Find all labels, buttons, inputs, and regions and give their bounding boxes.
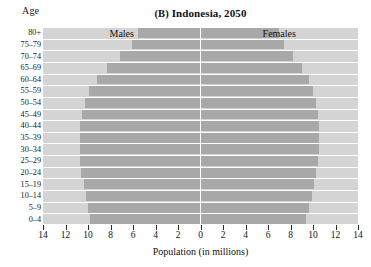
age-label-10_14: 10–14 (1, 191, 41, 200)
plot-area: Males Females (43, 27, 358, 225)
chart-title: (B) Indonesia, 2050 (43, 7, 358, 19)
x-tick-label: 2 (167, 230, 189, 240)
bar-female-50_54 (201, 98, 317, 108)
age-label-40_44: 40–44 (1, 121, 41, 130)
x-tick-label: 8 (280, 230, 302, 240)
bar-female-25_29 (201, 156, 318, 166)
x-tick-label: 12 (325, 230, 347, 240)
x-tick-label: 0 (190, 230, 212, 240)
population-pyramid-figure: Age (B) Indonesia, 2050 80+75–7970–7465–… (0, 0, 371, 267)
bar-male-0_4 (90, 214, 200, 224)
chart-title-text: Indonesia, 2050 (172, 7, 247, 19)
age-label-30_34: 30–34 (1, 145, 41, 154)
bar-male-15_19 (84, 179, 201, 189)
x-tick-label: 8 (100, 230, 122, 240)
age-label-15_19: 15–19 (1, 180, 41, 189)
age-label-45_49: 45–49 (1, 110, 41, 119)
age-label-65_69: 65–69 (1, 63, 41, 72)
zero-axis-line (200, 27, 201, 225)
x-tick-label: 10 (302, 230, 324, 240)
bar-male-65_69 (107, 63, 200, 73)
x-tick-label: 14 (347, 230, 369, 240)
panel-letter: (B) (154, 8, 168, 19)
bar-female-5_9 (201, 203, 309, 213)
bar-female-65_69 (201, 63, 302, 73)
age-label-50_54: 50–54 (1, 98, 41, 107)
x-tick-label: 6 (122, 230, 144, 240)
x-tick-label: 12 (55, 230, 77, 240)
bar-male-20_24 (81, 168, 200, 178)
bar-male-40_44 (80, 121, 200, 131)
age-group-labels: 80+75–7970–7465–6960–6455–5950–5445–4940… (0, 27, 41, 225)
bar-male-35_39 (80, 133, 200, 143)
age-label-55_59: 55–59 (1, 86, 41, 95)
age-label-35_39: 35–39 (1, 133, 41, 142)
bar-male-30_34 (80, 144, 200, 154)
age-label-20_24: 20–24 (1, 168, 41, 177)
bar-male-10_14 (86, 191, 201, 201)
bar-female-10_14 (201, 191, 312, 201)
bar-female-70_74 (201, 51, 293, 61)
x-tick-label: 4 (235, 230, 257, 240)
age-label-75_79: 75–79 (1, 40, 41, 49)
age-axis-title: Age (22, 5, 39, 16)
bar-male-5_9 (88, 203, 201, 213)
bar-female-75_79 (201, 39, 284, 49)
bar-female-40_44 (201, 121, 319, 131)
series-label-males: Males (43, 28, 201, 39)
age-label-0_4: 0–4 (1, 215, 41, 224)
x-tick-label: 14 (32, 230, 54, 240)
bar-female-55_59 (201, 86, 314, 96)
population-axis: 141210864202468101214 (43, 225, 358, 247)
age-label-5_9: 5–9 (1, 203, 41, 212)
bar-male-25_29 (80, 156, 200, 166)
bar-male-60_64 (97, 74, 201, 84)
x-tick-label: 2 (212, 230, 234, 240)
bar-male-55_59 (89, 86, 200, 96)
series-label-females: Females (201, 28, 359, 39)
bar-female-20_24 (201, 168, 317, 178)
age-label-60_64: 60–64 (1, 75, 41, 84)
bar-female-15_19 (201, 179, 315, 189)
bar-female-60_64 (201, 74, 309, 84)
population-axis-title: Population (in millions) (43, 246, 358, 257)
bar-male-75_79 (132, 39, 201, 49)
age-label-80+: 80+ (1, 28, 41, 37)
age-label-25_29: 25–29 (1, 156, 41, 165)
bar-female-30_34 (201, 144, 319, 154)
bar-female-35_39 (201, 133, 319, 143)
bar-female-0_4 (201, 214, 307, 224)
age-label-70_74: 70–74 (1, 52, 41, 61)
x-tick-label: 4 (145, 230, 167, 240)
bar-female-45_49 (201, 109, 318, 119)
bar-male-70_74 (120, 51, 201, 61)
x-tick-label: 6 (257, 230, 279, 240)
x-tick-label: 10 (77, 230, 99, 240)
bar-male-45_49 (82, 109, 200, 119)
bar-male-50_54 (85, 98, 201, 108)
